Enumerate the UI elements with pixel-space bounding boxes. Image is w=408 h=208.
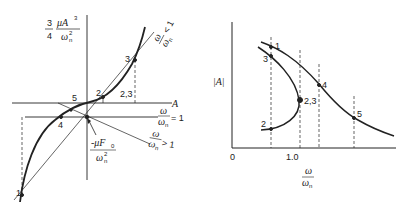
x-label-omega-ratio: ω ω n <box>302 165 314 189</box>
label-forcing: -μF 0 ω 2 n <box>90 137 116 164</box>
svg-text:0: 0 <box>111 143 115 149</box>
right-point-2-3-label: 2,3 <box>304 96 317 106</box>
point-2-label: 2 <box>96 88 101 98</box>
right-point-4-marker <box>318 84 321 87</box>
right-point-5-label: 5 <box>357 109 362 119</box>
upper-response-curve <box>261 42 394 136</box>
svg-text:-μF: -μF <box>91 137 106 148</box>
svg-text:ω: ω <box>160 105 167 116</box>
svg-text:n: n <box>309 183 312 189</box>
right-point-2-3-marker <box>298 98 303 103</box>
right-point-3-marker <box>270 55 273 58</box>
origin-forcing-marker <box>85 115 89 119</box>
point-3-marker <box>134 59 137 62</box>
right-labels: |A| 1 3 4 2,3 2 5 0 1.0 ω ω n <box>213 41 362 189</box>
point-4-label: 4 <box>58 120 63 130</box>
svg-text:> 1: > 1 <box>161 138 175 150</box>
label-omega-gt-1: ω ω n > 1 <box>148 127 177 154</box>
y-label-num-exp: 3 <box>74 15 78 21</box>
y-label-num: μA <box>56 17 69 28</box>
y-label-coef-den: 4 <box>47 31 52 41</box>
point-4-marker <box>60 116 63 119</box>
svg-text:< 1: < 1 <box>161 19 176 35</box>
forcing-arrow <box>89 121 96 135</box>
point-5-marker <box>70 109 72 111</box>
svg-text:= 1: = 1 <box>171 113 184 123</box>
x-tick-0: 0 <box>230 152 235 162</box>
point-2-3-label: 2,3 <box>120 89 133 99</box>
diagram-canvas: 3 4 μA 3 ω 2 n A ω ω n < 1 ω ω n = 1 ω <box>0 0 408 208</box>
x-label-A: A <box>171 98 179 109</box>
right-point-5-marker <box>353 117 356 120</box>
svg-text:ω: ω <box>96 152 103 163</box>
y-label-abs-A: |A| <box>213 76 225 87</box>
point-3-label: 3 <box>125 54 130 64</box>
left-labels: 3 4 μA 3 ω 2 n A ω ω n < 1 ω ω n = 1 ω <box>16 15 184 198</box>
point-5-label: 5 <box>72 93 77 103</box>
right-point-2-marker <box>270 128 273 131</box>
point-2-marker <box>102 96 105 99</box>
label-omega-eq-1: ω ω n = 1 <box>158 105 184 128</box>
svg-text:2: 2 <box>104 151 108 157</box>
line-omega-lt-1 <box>14 32 154 200</box>
right-diagram <box>232 22 396 148</box>
right-point-2-label: 2 <box>261 119 266 129</box>
svg-text:ω: ω <box>158 116 165 127</box>
label-omega-lt-1: ω ω n < 1 <box>150 16 182 49</box>
y-label-den: ω <box>61 31 68 42</box>
y-label-den-sub: n <box>69 37 72 43</box>
y-label-den-exp: 2 <box>69 30 73 36</box>
svg-text:ω: ω <box>305 165 312 176</box>
right-point-3-label: 3 <box>263 54 268 64</box>
svg-text:ω: ω <box>302 177 309 188</box>
svg-text:n: n <box>104 158 107 164</box>
y-label-coef-num: 3 <box>47 18 52 28</box>
x-tick-1-0: 1.0 <box>286 152 299 162</box>
left-diagram <box>12 15 172 202</box>
right-point-4-label: 4 <box>322 80 327 90</box>
point-1-label: 1 <box>16 188 21 198</box>
svg-text:n: n <box>165 122 168 128</box>
right-point-1-marker <box>270 46 273 49</box>
right-point-1-label: 1 <box>275 41 280 51</box>
svg-text:n: n <box>154 145 158 151</box>
